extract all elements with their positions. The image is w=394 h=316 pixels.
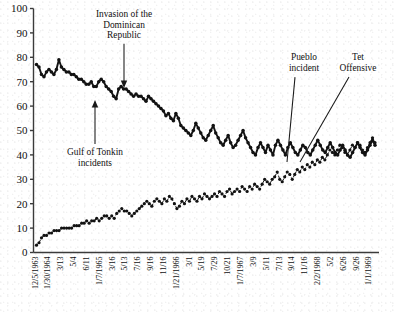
data-point <box>147 95 151 99</box>
data-point <box>132 95 136 99</box>
data-point <box>199 131 203 135</box>
data-point <box>85 219 88 222</box>
data-point <box>281 180 284 183</box>
data-point <box>152 99 156 103</box>
data-point <box>256 185 259 188</box>
data-point <box>316 158 319 161</box>
data-point <box>286 170 289 173</box>
x-tick-label: 5/2 <box>326 257 335 267</box>
data-point <box>253 183 256 186</box>
data-point <box>235 187 238 190</box>
data-point <box>296 168 299 171</box>
data-point <box>100 217 103 220</box>
data-point <box>150 205 153 208</box>
data-point <box>167 112 171 116</box>
data-point <box>229 141 233 145</box>
data-point <box>228 187 231 190</box>
data-point <box>125 209 128 212</box>
y-tick-label: 50 <box>17 124 29 136</box>
data-point <box>304 146 308 150</box>
data-point <box>205 195 208 198</box>
data-point <box>149 97 153 101</box>
data-point <box>313 163 316 166</box>
y-tick-label: 70 <box>17 76 29 88</box>
data-point <box>264 151 268 155</box>
data-point <box>177 117 181 121</box>
x-tick-label: 3/13 <box>56 257 65 271</box>
data-point <box>47 68 51 72</box>
data-point <box>37 241 40 244</box>
data-point <box>57 58 61 62</box>
data-point <box>353 146 357 150</box>
x-tick-label: 1/7/1965 <box>95 257 104 285</box>
annotation-arrowhead <box>92 100 98 107</box>
data-point <box>219 141 223 145</box>
data-point <box>311 148 315 152</box>
data-point <box>271 153 275 157</box>
data-point <box>187 131 191 135</box>
data-point <box>221 143 225 147</box>
data-point <box>273 175 276 178</box>
x-tick-label: 10/21 <box>223 257 232 275</box>
data-point <box>188 200 191 203</box>
x-tick-label: 12/5/1963 <box>31 257 40 289</box>
data-point <box>363 153 367 157</box>
x-tick-label: 3/9 <box>249 257 258 267</box>
data-point <box>163 197 166 200</box>
y-tick-label: 60 <box>17 100 29 112</box>
data-point <box>208 197 211 200</box>
data-point <box>266 180 269 183</box>
data-point <box>249 146 253 150</box>
data-point <box>230 192 233 195</box>
data-point <box>343 148 347 152</box>
data-point <box>172 119 176 123</box>
data-point <box>316 139 320 143</box>
data-point <box>203 192 206 195</box>
data-point <box>248 185 251 188</box>
data-point <box>251 151 255 155</box>
data-point <box>234 143 238 147</box>
data-point <box>159 107 163 111</box>
data-point <box>42 75 46 79</box>
data-point <box>274 143 278 147</box>
data-point <box>40 236 43 239</box>
data-point <box>259 141 263 145</box>
data-point <box>299 148 303 152</box>
data-point <box>52 73 56 77</box>
data-point <box>311 161 314 164</box>
data-point <box>373 143 377 147</box>
x-tick-label: 6/26 <box>339 257 348 271</box>
data-point <box>170 197 173 200</box>
data-point <box>336 153 340 157</box>
chart-svg: 0102030405060708090100 12/5/19631/30/196… <box>0 0 394 316</box>
y-tick-label: 20 <box>17 198 29 210</box>
data-point <box>99 78 103 82</box>
x-tick-label: 7/13 <box>275 257 284 271</box>
data-point <box>323 158 326 161</box>
data-point <box>83 222 86 225</box>
data-point <box>223 195 226 198</box>
data-point <box>82 80 86 84</box>
data-point <box>308 166 311 169</box>
x-tick-label: 5/19 <box>197 257 206 271</box>
data-point <box>351 151 355 155</box>
y-tick-label: 100 <box>11 2 28 14</box>
annotation-label: Tet <box>352 52 364 62</box>
x-tick-label: 5/4 <box>69 257 78 267</box>
data-point <box>90 80 94 84</box>
x-tick-labels: 12/5/19631/30/19643/135/46/111/7/19653/1… <box>31 257 374 289</box>
data-point <box>258 187 261 190</box>
data-point <box>117 87 121 91</box>
data-point <box>358 146 362 150</box>
data-point <box>72 73 76 77</box>
data-point <box>35 244 38 247</box>
series-line-approve <box>37 60 376 158</box>
data-point <box>55 68 59 72</box>
data-point <box>98 219 101 222</box>
data-point <box>175 207 178 210</box>
data-point <box>168 195 171 198</box>
data-point <box>95 217 98 220</box>
data-point <box>314 143 318 147</box>
data-point <box>236 139 240 143</box>
data-point <box>143 202 146 205</box>
